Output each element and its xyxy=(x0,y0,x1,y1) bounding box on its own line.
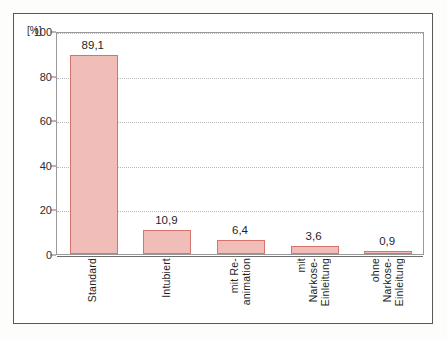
x-category-label-line: mit xyxy=(296,258,307,273)
figure: [%] 020406080100 StandardIntubiertmit Re… xyxy=(0,0,447,339)
x-category-label-line: Narkose- xyxy=(308,258,319,302)
bar-value-label: 6,4 xyxy=(210,224,270,236)
gridline-0 xyxy=(57,256,423,257)
bar-value-label: 0,9 xyxy=(357,235,417,247)
x-category-label: Standard xyxy=(80,258,106,330)
x-category-label-line: Einleitung xyxy=(320,258,331,306)
x-category-label-line: Standard xyxy=(87,258,98,302)
plot-area xyxy=(56,32,424,255)
y-tick-label-100: 100 xyxy=(18,26,52,38)
bar-value-label: 10,9 xyxy=(136,214,196,226)
bar[interactable] xyxy=(143,230,191,254)
x-category-label-line: Narkose- xyxy=(382,258,393,302)
y-tick-label-80: 80 xyxy=(18,71,52,83)
x-category-label-line: ohne xyxy=(370,258,381,282)
x-category-label-line: mit Re- xyxy=(229,258,240,293)
x-axis-category-labels: StandardIntubiertmit Re-animationmitNark… xyxy=(56,258,424,330)
bar[interactable] xyxy=(291,246,339,254)
x-category-label-line: Intubiert xyxy=(161,258,172,298)
y-axis-tick-labels: 020406080100 xyxy=(14,32,52,255)
y-tick-label-20: 20 xyxy=(18,204,52,216)
bar-value-label: 89,1 xyxy=(63,39,123,51)
bar[interactable] xyxy=(70,55,118,254)
y-tick-label-60: 60 xyxy=(18,115,52,127)
bar-series xyxy=(57,33,423,254)
x-category-label: ohneNarkose-Einleitung xyxy=(368,258,407,330)
bar[interactable] xyxy=(217,240,265,254)
x-category-label-line: Einleitung xyxy=(394,258,405,306)
x-category-label: Intubiert xyxy=(153,258,179,330)
bar-value-label: 3,6 xyxy=(284,230,344,242)
x-category-label: mitNarkose-Einleitung xyxy=(294,258,333,330)
x-category-label-line: animation xyxy=(241,258,252,305)
y-tick-label-0: 0 xyxy=(18,249,52,261)
y-tick-label-40: 40 xyxy=(18,160,52,172)
bar[interactable] xyxy=(364,251,412,254)
x-category-label: mit Re-animation xyxy=(227,258,253,330)
